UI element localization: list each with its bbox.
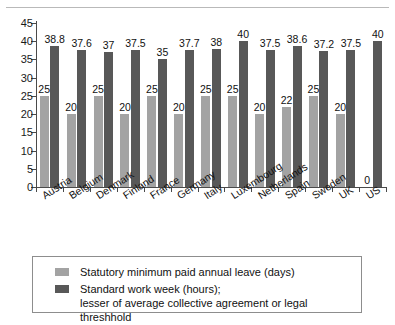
bar-group: 2540 <box>224 23 251 187</box>
y-axis-tick-label: 35 <box>21 54 33 65</box>
legend-label-workweek-line2: lesser of average collective agreement o… <box>80 296 361 324</box>
chart-legend: Statutory minimum paid annual leave (day… <box>32 256 362 313</box>
bar-group: 2037.7 <box>171 23 198 187</box>
legend-item-leave: Statutory minimum paid annual leave (day… <box>55 265 295 279</box>
bar-workweek: 40 <box>239 41 248 187</box>
bar-group: 2537.2 <box>305 23 332 187</box>
bar-value-label: 38 <box>210 37 222 48</box>
bar-value-label: 20 <box>119 102 131 113</box>
bar-value-label: 40 <box>237 29 249 40</box>
y-axis-tick-label: 25 <box>21 90 33 101</box>
bar-group: 2537 <box>90 23 117 187</box>
legend-swatch-light <box>55 268 69 276</box>
chart-page: 051015202530354045 2538.82037.625372037.… <box>0 0 395 325</box>
bar-group: 2037.5 <box>117 23 144 187</box>
y-axis-tick-label: 5 <box>27 163 33 174</box>
bar-workweek: 38.8 <box>50 46 59 187</box>
bar-workweek: 37.6 <box>77 50 86 187</box>
bar-value-label: 37.6 <box>71 38 91 49</box>
bar-workweek: 40 <box>373 41 382 187</box>
bar-value-label: 25 <box>92 84 104 95</box>
bar-workweek: 37 <box>104 52 113 187</box>
bar-leave: 25 <box>228 96 237 187</box>
bar-value-label: 37.2 <box>314 39 334 50</box>
y-axis-tick-label: 0 <box>27 182 33 193</box>
bar-value-label: 22 <box>281 95 293 106</box>
bar-workweek: 37.5 <box>131 50 140 187</box>
bar-value-label: 20 <box>65 102 77 113</box>
y-axis-tick-label: 20 <box>21 109 33 120</box>
plot-area: 2538.82037.625372037.525352037.725382540… <box>36 23 386 187</box>
legend-label-leave: Statutory minimum paid annual leave (day… <box>80 265 295 279</box>
legend-swatch-dark <box>55 285 69 293</box>
bar-value-label: 37.7 <box>179 38 199 49</box>
bar-group: 2535 <box>144 23 171 187</box>
bar-value-label: 40 <box>372 29 384 40</box>
bar-group: 2538 <box>198 23 225 187</box>
bar-group: 2037.5 <box>332 23 359 187</box>
bar-workweek: 37.2 <box>319 51 328 187</box>
bar-value-label: 38.6 <box>287 34 307 45</box>
bar-value-label: 25 <box>308 84 320 95</box>
bar-value-label: 0 <box>364 175 370 186</box>
bar-value-label: 35 <box>157 47 169 58</box>
bar-value-label: 37.5 <box>125 38 145 49</box>
y-axis-tick-label: 45 <box>21 18 33 29</box>
legend-label-workweek: Standard work week (hours); lesser of av… <box>80 282 361 324</box>
bar-value-label: 37.5 <box>341 38 361 49</box>
bar-group: 040 <box>359 23 386 187</box>
bar-group: 2037.6 <box>63 23 90 187</box>
bar-value-label: 20 <box>335 102 347 113</box>
y-axis-tick-label: 40 <box>21 36 33 47</box>
bar-value-label: 37 <box>103 40 115 51</box>
bar-workweek: 37.5 <box>346 50 355 187</box>
bar-value-label: 25 <box>200 84 212 95</box>
legend-item-workweek: Standard work week (hours); lesser of av… <box>55 282 361 324</box>
y-axis-tick-label: 15 <box>21 127 33 138</box>
bar-value-label: 38.8 <box>44 34 64 45</box>
bar-workweek: 37.7 <box>185 50 194 187</box>
bar-value-label: 25 <box>146 84 158 95</box>
bar-workweek: 38 <box>212 49 221 187</box>
bar-leave: 25 <box>309 96 318 187</box>
bar-value-label: 20 <box>173 102 185 113</box>
bar-value-label: 20 <box>254 102 266 113</box>
grouped-bar-chart: 051015202530354045 2538.82037.625372037.… <box>0 0 395 250</box>
y-axis-tick-label: 10 <box>21 145 33 156</box>
bar-leave: 25 <box>40 96 49 187</box>
y-axis-tick-label: 30 <box>21 72 33 83</box>
bar-value-label: 37.5 <box>260 38 280 49</box>
legend-label-workweek-line1: Standard work week (hours); <box>80 283 221 295</box>
bar-workweek: 35 <box>158 59 167 187</box>
bar-value-label: 25 <box>38 84 50 95</box>
x-axis-labels: AustriaBelgiumDenmarkFinlandFranceGerman… <box>36 192 387 250</box>
bar-value-label: 25 <box>227 84 239 95</box>
bar-group: 2538.8 <box>36 23 63 187</box>
